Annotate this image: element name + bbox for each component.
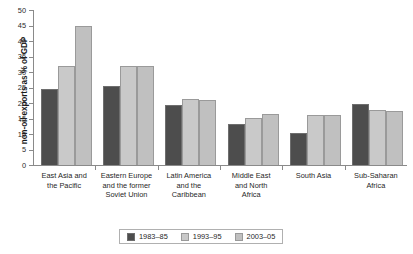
bar <box>58 66 75 165</box>
bar <box>369 110 386 165</box>
y-axis-tick-label: 35 <box>0 56 26 57</box>
y-axis-tick-label: 20 <box>0 103 26 104</box>
y-axis-tick-label: 5 <box>0 149 26 150</box>
y-axis-tick <box>29 88 34 89</box>
y-axis-tick-label: 0 <box>0 165 26 166</box>
y-axis-tick <box>29 150 34 151</box>
y-axis-tick-label: 15 <box>0 118 26 119</box>
bar <box>182 99 199 165</box>
y-axis-tick-label: 40 <box>0 41 26 42</box>
category-label-line: Sub-Saharan <box>333 171 413 181</box>
y-axis-tick <box>29 10 34 11</box>
x-axis-tick <box>95 166 96 170</box>
legend-swatch-icon <box>235 233 243 241</box>
y-axis-tick-label: 30 <box>0 72 26 73</box>
y-axis-tick <box>29 41 34 42</box>
bar <box>307 115 324 165</box>
y-axis-tick-label: 25 <box>0 87 26 88</box>
bar <box>75 26 92 165</box>
x-axis-tick <box>220 166 221 170</box>
bar <box>103 86 120 165</box>
bar <box>386 111 403 165</box>
legend-item[interactable]: 1993–95 <box>181 232 222 241</box>
legend-item[interactable]: 2003–05 <box>235 232 276 241</box>
x-axis-tick <box>158 166 159 170</box>
legend-label: 1983–85 <box>139 232 168 241</box>
category-label-line: Africa <box>208 190 294 200</box>
bar <box>245 118 262 165</box>
legend-label: 1993–95 <box>193 232 222 241</box>
plot-area: 50454035302520151050 <box>33 10 407 166</box>
legend-swatch-icon <box>181 233 189 241</box>
bar <box>120 66 137 165</box>
legend-swatch-icon <box>127 233 135 241</box>
y-axis-tick <box>29 72 34 73</box>
bar <box>352 104 369 165</box>
bar <box>165 105 182 165</box>
y-axis-tick-label: 10 <box>0 134 26 135</box>
bar <box>262 114 279 165</box>
y-axis-tick <box>29 134 34 135</box>
y-axis-tick <box>29 119 34 120</box>
bar <box>41 89 58 165</box>
category-label-5: Sub-SaharanAfrica <box>333 171 413 190</box>
y-axis-tick-label: 45 <box>0 25 26 26</box>
y-axis-tick-label: 50 <box>0 10 26 11</box>
bar <box>324 115 341 165</box>
x-axis-tick <box>282 166 283 170</box>
legend-item[interactable]: 1983–85 <box>127 232 168 241</box>
chart-legend: 1983–851993–952003–05 <box>119 229 283 244</box>
bar-chart: non-oil exports as % of GDP 504540353025… <box>0 0 413 254</box>
bar <box>228 124 245 165</box>
y-axis-tick <box>29 57 34 58</box>
y-axis-tick <box>29 103 34 104</box>
y-axis-tick <box>29 26 34 27</box>
bar <box>290 133 307 165</box>
x-axis-tick <box>345 166 346 170</box>
category-label-line: and North <box>208 181 294 191</box>
category-label-line: Africa <box>333 181 413 191</box>
bar <box>199 100 216 165</box>
bar <box>137 66 154 165</box>
y-axis-tick <box>29 165 34 166</box>
legend-label: 2003–05 <box>247 232 276 241</box>
